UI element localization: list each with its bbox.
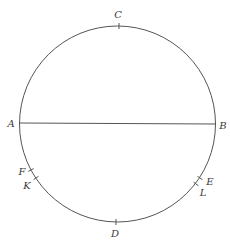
circle-diagram: A B C D E F K L [0,0,230,242]
point-label-a: A [7,119,14,129]
diameter-ab [20,123,216,124]
point-label-l: L [200,188,207,198]
point-label-b: B [219,121,226,131]
point-label-c: C [114,10,122,20]
point-label-k: K [23,181,30,191]
point-label-d: D [111,229,119,239]
point-label-f: F [19,167,26,177]
diagram-svg [0,0,230,242]
point-label-e: E [206,177,213,187]
